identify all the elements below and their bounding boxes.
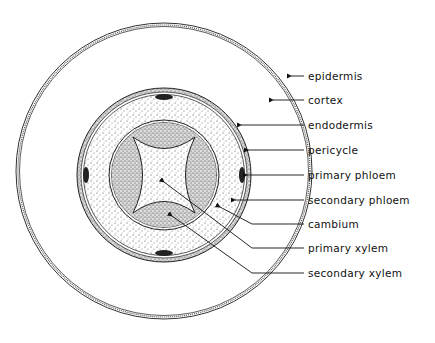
label-secondary-phloem: secondary phloem	[308, 194, 410, 206]
label-primary-phloem: primary phloem	[308, 169, 396, 181]
label-endodermis: endodermis	[308, 119, 373, 131]
label-primary-xylem: primary xylem	[308, 242, 388, 254]
xylem-core	[112, 123, 216, 227]
primary-xylem-star	[133, 137, 195, 213]
label-pericycle: pericycle	[308, 144, 358, 156]
label-secondary-xylem: secondary xylem	[308, 267, 402, 279]
label-epidermis: epidermis	[308, 70, 363, 82]
label-cortex: cortex	[308, 94, 343, 106]
label-cambium: cambium	[308, 218, 359, 230]
